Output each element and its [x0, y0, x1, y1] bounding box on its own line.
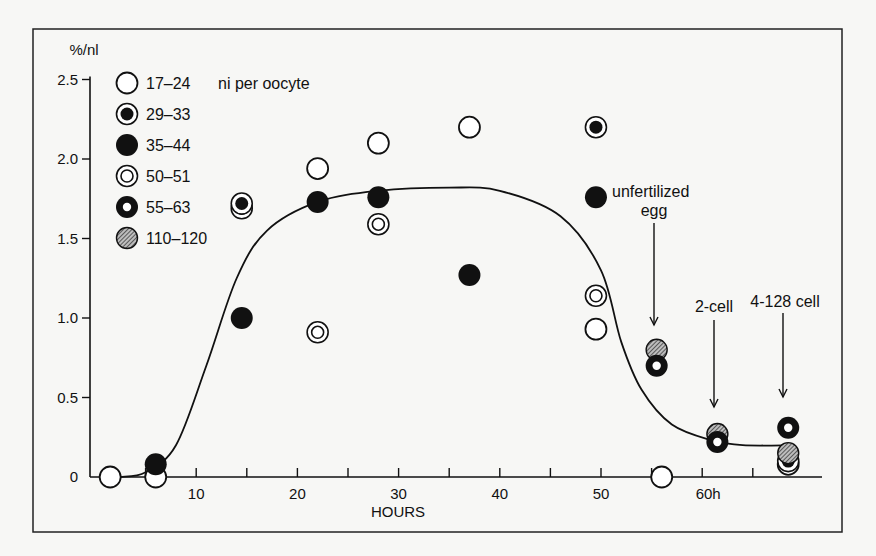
- y-tick-label: 0: [70, 468, 78, 485]
- marker-filled: [231, 307, 253, 329]
- x-tick-label: 40: [491, 485, 508, 502]
- marker-thick_ring: [706, 431, 728, 453]
- x-tick-label: 10: [188, 485, 205, 502]
- marker-filled: [458, 264, 480, 286]
- legend-label: 55–63: [146, 199, 191, 216]
- x-tick-label: 50: [593, 485, 610, 502]
- fit-curve: [120, 187, 793, 477]
- marker-open: [459, 117, 480, 138]
- marker-open: [117, 73, 138, 94]
- marker-hatched: [778, 443, 799, 464]
- marker-filled: [585, 186, 607, 208]
- marker-ring_filled_center: [117, 104, 138, 125]
- marker-filled: [145, 453, 167, 475]
- y-tick-label: 2.5: [57, 71, 78, 88]
- legend: 17–2429–3335–4450–5155–63110–120ni per o…: [116, 73, 310, 249]
- marker-open: [585, 319, 606, 340]
- scatter-chart: 00.51.01.52.02.5102030405060h 17–2429–33…: [0, 0, 876, 556]
- legend-label: 110–120: [146, 230, 207, 247]
- y-tick-label: 1.0: [57, 309, 78, 326]
- annotation-egg: egg: [641, 202, 668, 219]
- marker-thick_ring: [777, 417, 799, 439]
- marker-double_ring: [368, 214, 389, 235]
- marker-ring_filled_center: [231, 193, 252, 214]
- annotations: unfertilizedegg2-cell4-128 cell: [612, 183, 820, 407]
- marker-thick_ring: [116, 196, 138, 218]
- marker-filled: [116, 134, 138, 156]
- marker-thick_ring: [646, 355, 668, 377]
- legend-label: 29–33: [146, 106, 191, 123]
- marker-hatched: [117, 228, 138, 249]
- marker-double_ring: [585, 285, 606, 306]
- legend-label: 50–51: [146, 168, 191, 185]
- legend-label: 17–24: [146, 75, 191, 92]
- annotation-4-128cell: 4-128 cell: [750, 293, 819, 310]
- x-tick-label: 20: [289, 485, 306, 502]
- marker-open: [307, 158, 328, 179]
- marker-double_ring: [117, 166, 138, 187]
- legend-title: ni per oocyte: [218, 75, 310, 92]
- legend-label: 35–44: [146, 137, 191, 154]
- marker-open: [651, 467, 672, 488]
- marker-filled: [307, 191, 329, 213]
- annotation-2cell: 2-cell: [695, 298, 733, 315]
- marker-double_ring: [307, 322, 328, 343]
- annotation-unfertilized: unfertilized: [612, 183, 689, 200]
- x-tick-label: 30: [390, 485, 407, 502]
- x-tick-label: 60h: [696, 485, 721, 502]
- x-axis-label: HOURS: [371, 503, 425, 520]
- marker-open: [368, 133, 389, 154]
- marker-filled: [367, 186, 389, 208]
- marker-open: [100, 467, 121, 488]
- sigmoid-curve: [120, 187, 793, 477]
- y-tick-label: 0.5: [57, 389, 78, 406]
- y-tick-label: 2.0: [57, 150, 78, 167]
- y-tick-label: 1.5: [57, 230, 78, 247]
- y-axis-label: %/nl: [69, 41, 98, 58]
- marker-ring_filled_center: [585, 117, 606, 138]
